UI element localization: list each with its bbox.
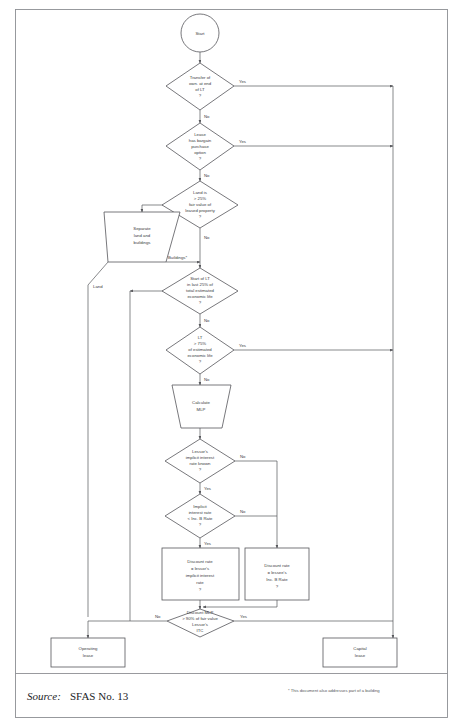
node-start25-line4: economic life — [187, 294, 213, 299]
node-separate-line1: Separate — [133, 226, 151, 231]
node-discimplicit-line2: = lessor's — [191, 566, 209, 571]
node-separate-line3: buildings — [134, 240, 151, 245]
node-start25-line1: Start of LT — [190, 276, 210, 281]
node-mlp90-line2: > 90% of fair value — [182, 616, 218, 621]
edge-label-land: Land — [93, 284, 103, 289]
node-discincb-line2: = lessee's — [267, 570, 286, 575]
edge-label-mlp90-yes: Yes — [240, 614, 247, 619]
node-transfer-line3: of LT — [195, 87, 205, 92]
flowchart-page: Start Transfer of own. at end of LT ? Le… — [0, 0, 463, 727]
node-discount-rate-lessor-implicit: Discount rate = lessor's implicit intere… — [162, 548, 239, 600]
node-ratecompare-line2: interest rate — [189, 510, 212, 515]
node-start25-line3: total estimated — [186, 288, 215, 293]
source-value: SFAS No. 13 — [70, 690, 129, 702]
node-lessor-implicit-rate-known: Lessor's implicit interest rate known ? — [165, 439, 235, 483]
node-bargain-line4: option — [194, 150, 206, 155]
node-calculate-mlp: Calculate MLP — [172, 385, 231, 428]
node-bargain-line2: has bargain — [189, 138, 212, 143]
node-mlp90-line1: Discount MLP — [187, 610, 214, 615]
node-operating-line1: Operating — [79, 646, 98, 651]
footnote: * This document also addresses part of a… — [288, 688, 380, 693]
node-mlp90-line3: Lessor's — [192, 622, 208, 627]
node-bargain-line3: purchase — [191, 144, 209, 149]
edge-label-transfer-no: No — [204, 114, 210, 119]
node-calcmlp-line1: Calculate — [192, 400, 211, 405]
node-implicit-vs-incremental-rate: Implicit interest rate < Inc. B Rate ? — [165, 494, 235, 538]
node-land25-line1: Land is — [193, 190, 207, 195]
node-land25-line3: fair value of — [189, 202, 212, 207]
edge-label-bargain-yes: Yes — [239, 139, 246, 144]
node-transfer-line2: own. at end — [189, 81, 212, 86]
node-discimplicit-line4: rate — [196, 580, 204, 585]
node-bargain-line1: Lease — [194, 132, 206, 137]
node-discounted-mlp-90-percent: Discount MLP > 90% of fair value Lessor'… — [167, 609, 234, 637]
edge-label-start25-no: No — [204, 318, 210, 323]
node-transfer-of-ownership: Transfer of own. at end of LT ? — [166, 63, 234, 110]
node-discimplicit-line1: Discount rate — [187, 559, 213, 564]
node-land25-line2: > 25% — [194, 196, 206, 201]
node-lessorknown-line2: implicit interest — [186, 455, 215, 460]
edge-label-lessorknown-yes: Yes — [204, 486, 211, 491]
node-capital-line2: lease — [355, 653, 366, 658]
source-label: Source: — [27, 690, 61, 702]
node-lessorknown-line3: rate known — [189, 461, 211, 466]
edge-label-mlp90-no: No — [155, 614, 161, 619]
node-mlp90-line4: ITC — [197, 628, 204, 633]
node-lt75-line3: of estimated — [188, 347, 212, 352]
node-lessorknown-line1: Lessor's — [192, 449, 208, 454]
node-land25-line4: leased property — [185, 208, 215, 213]
edge-label-lessorknown-no: No — [240, 454, 246, 459]
node-separate-line2: land and — [134, 233, 151, 238]
node-ratecompare-line3: < Inc. B Rate — [188, 516, 214, 521]
edge-label-lt75-yes: Yes — [239, 343, 246, 348]
node-transfer-line1: Transfer of — [190, 75, 211, 80]
node-ratecompare-line1: Implicit — [193, 504, 207, 509]
lease-classification-flowchart: Start Transfer of own. at end of LT ? Le… — [0, 0, 463, 727]
node-lt75-line1: LT — [198, 335, 203, 340]
edge-label-bargain-no: No — [204, 173, 210, 178]
edge-label-lt75-no: No — [204, 377, 210, 382]
page-border — [16, 10, 448, 718]
edge-label-ratecompare-yes: Yes — [204, 541, 211, 546]
node-operating-line2: lease — [83, 653, 94, 658]
node-lt-greater-75: LT > 75% of estimated economic life ? — [166, 327, 234, 374]
node-capital-lease: Capital lease — [323, 638, 397, 667]
edge-label-transfer-yes: Yes — [239, 79, 246, 84]
node-operating-lease: Operating lease — [51, 638, 125, 667]
edge-label-land25-no: No — [204, 235, 210, 240]
edge-label-ratecompare-no: No — [240, 509, 246, 514]
node-calcmlp-line2: MLP — [197, 407, 206, 412]
node-lt75-line4: economic life — [187, 353, 213, 358]
edge-label-buildings: Buildings* — [168, 255, 187, 260]
node-start25-line2: in last 25% of — [187, 282, 214, 287]
node-discount-rate-lessee-incb: Discount rate = lessee's Inc. B Rate ? — [245, 548, 309, 600]
node-start: Start — [181, 14, 219, 52]
node-lt75-line2: > 75% — [194, 341, 206, 346]
node-start-of-lt-last-25: Start of LT in last 25% of total estimat… — [162, 268, 238, 314]
node-bargain-purchase-option: Lease has bargain purchase option ? — [166, 123, 234, 170]
node-discimplicit-line3: implicit interest — [186, 573, 215, 578]
node-capital-line1: Capital — [353, 646, 366, 651]
node-start-label: Start — [195, 31, 205, 36]
node-discincb-line3: Inc. B Rate — [266, 577, 288, 582]
node-discincb-line1: Discount rate — [264, 563, 290, 568]
